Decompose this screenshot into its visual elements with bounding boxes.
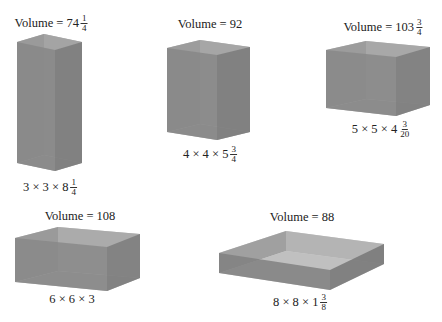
fraction-denominator: 4 (70, 188, 77, 197)
box-4-dimensions-label: 6 × 6 × 3 (49, 292, 94, 307)
box-1-dimensions-label: 3 × 3 × 8 14 (23, 178, 77, 197)
box-4-shape (15, 227, 140, 291)
box-3-shape (326, 41, 430, 116)
box-5-dimensions-label: 8 × 8 × 1 38 (273, 293, 327, 312)
box-2-shape (167, 40, 250, 140)
dimensions-text: 5 × 5 × 4 (352, 122, 397, 137)
box-1-volume-label: Volume = 74 14 (15, 14, 88, 33)
fraction-denominator: 4 (230, 155, 237, 164)
volume-text: Volume = 74 (15, 16, 79, 31)
dimensions-text: 8 × 8 × 1 (273, 295, 318, 310)
dimensions-text: 4 × 4 × 5 (183, 147, 228, 162)
dimensions-text: 3 × 3 × 8 (23, 180, 68, 195)
volume-text: Volume = 108 (45, 209, 116, 224)
fraction-denominator: 4 (416, 28, 423, 37)
volume-fraction: 14 (81, 14, 88, 33)
fraction-denominator: 4 (81, 24, 88, 33)
fraction-denominator: 20 (399, 130, 410, 139)
box-4-volume-label: Volume = 108 (45, 209, 116, 224)
dimensions-fraction: 320 (399, 120, 410, 139)
dimensions-text: 6 × 6 × 3 (49, 292, 94, 307)
box-3-dimensions-label: 5 × 5 × 4 320 (352, 120, 410, 139)
dimensions-fraction: 34 (230, 145, 237, 164)
box-3-volume-label: Volume = 103 34 (343, 18, 422, 37)
box-2-volume-label: Volume = 92 (178, 17, 242, 32)
fraction-denominator: 8 (320, 303, 327, 312)
box-2-dimensions-label: 4 × 4 × 5 34 (183, 145, 237, 164)
volume-fraction: 34 (416, 18, 423, 37)
dimensions-fraction: 14 (70, 178, 77, 197)
volume-text: Volume = 88 (270, 210, 334, 225)
dimensions-fraction: 38 (320, 293, 327, 312)
volume-text: Volume = 92 (178, 17, 242, 32)
volume-text: Volume = 103 (343, 20, 414, 35)
box-5-volume-label: Volume = 88 (270, 210, 334, 225)
box-5-shape (219, 231, 384, 290)
box-1-shape (17, 34, 82, 171)
